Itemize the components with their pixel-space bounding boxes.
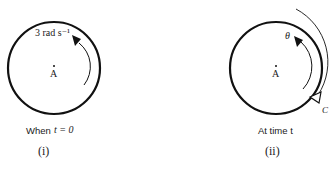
center-label-a: A (272, 68, 279, 79)
center-point (275, 65, 277, 67)
panel-label-i: (i) (38, 144, 49, 159)
rotation-arc (301, 42, 312, 89)
figure-ii (230, 9, 328, 114)
panel-label-ii: (ii) (265, 144, 280, 159)
center-point (53, 65, 55, 67)
rotation-arrow-head-icon (294, 36, 303, 47)
diagram-canvas (0, 0, 336, 173)
rotation-arrow-head-icon (72, 35, 81, 46)
arc-label-c: C (322, 105, 328, 115)
center-label-a: A (50, 68, 57, 79)
angular-velocity-label: 3 rad s⁻¹ (35, 27, 70, 38)
angle-label-theta: θ (285, 30, 290, 41)
rotation-arc (79, 43, 90, 85)
caption-at-time: At time t (258, 125, 293, 136)
displacement-arc (296, 9, 328, 95)
caption-condition: t = 0 (54, 124, 74, 135)
caption-prefix: When (26, 125, 51, 136)
